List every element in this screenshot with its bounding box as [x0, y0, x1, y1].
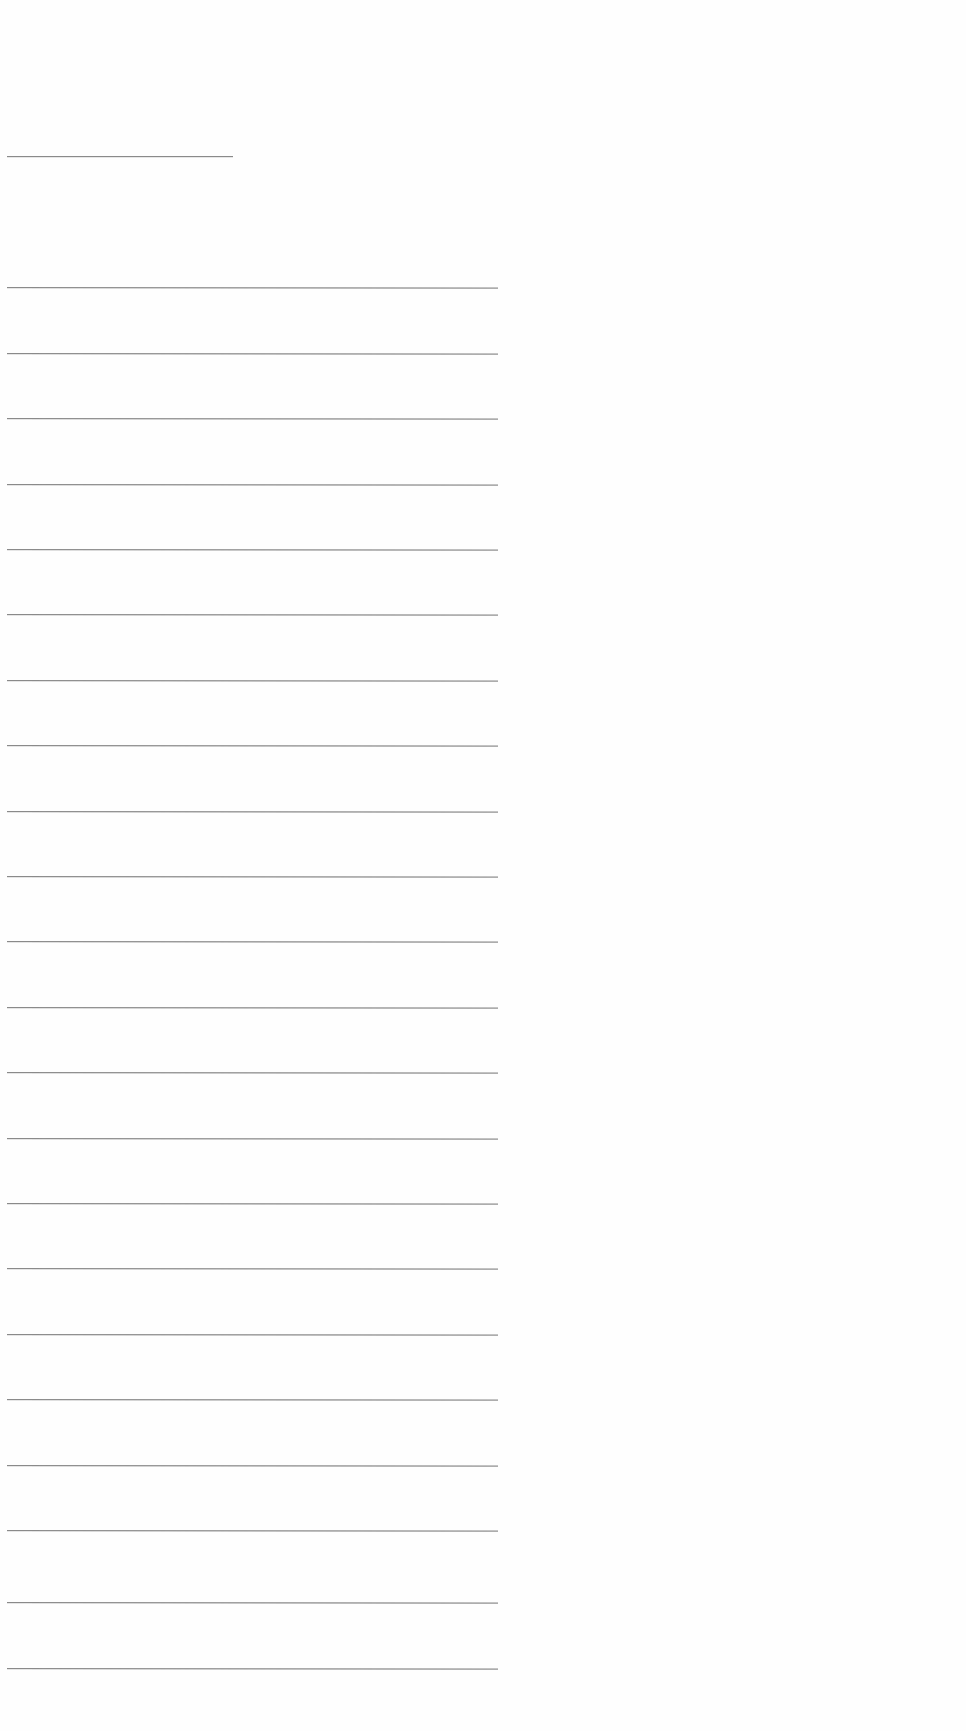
ruled-line: [7, 287, 498, 288]
ruled-line: [7, 549, 498, 550]
ruled-line: [7, 418, 498, 419]
ruled-line: [7, 811, 498, 812]
ruled-line: [7, 876, 498, 877]
ruled-line: [7, 484, 498, 485]
ruled-line: [7, 941, 498, 942]
ruled-line: [7, 1530, 498, 1531]
title-line: [7, 156, 233, 157]
ruled-line: [7, 1007, 498, 1008]
lined-paper-page: [0, 0, 966, 1731]
ruled-line: [7, 1072, 498, 1073]
ruled-line: [7, 1668, 498, 1669]
ruled-line: [7, 614, 498, 615]
ruled-line: [7, 1465, 498, 1466]
ruled-line: [7, 1334, 498, 1335]
ruled-line: [7, 1203, 498, 1204]
ruled-line: [7, 680, 498, 681]
ruled-line: [7, 1138, 498, 1139]
ruled-line: [7, 745, 498, 746]
ruled-line: [7, 353, 498, 354]
ruled-line: [7, 1268, 498, 1269]
ruled-line: [7, 1602, 498, 1603]
ruled-line: [7, 1399, 498, 1400]
